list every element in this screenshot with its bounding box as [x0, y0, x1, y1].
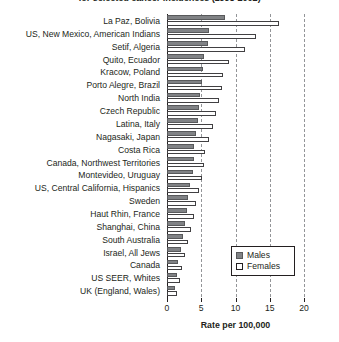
bar-females: [167, 150, 205, 155]
bar-females: [167, 111, 216, 116]
category-label-list: La Paz, BoliviaUS, New Mexico, American …: [0, 14, 164, 297]
bar-males: [167, 195, 188, 200]
bar-females: [167, 124, 213, 129]
bar-females: [167, 34, 256, 39]
bar-females: [167, 137, 209, 142]
bar-females: [167, 188, 199, 193]
bar-females: [167, 21, 279, 26]
x-tick-20: [304, 298, 305, 302]
bar-males: [167, 41, 208, 46]
bar-males: [167, 118, 198, 123]
x-tick-label-5: 5: [189, 303, 213, 313]
bar-males: [167, 170, 193, 175]
bar-males: [167, 144, 194, 149]
bar-females: [167, 176, 202, 181]
bar-females: [167, 266, 182, 271]
bar-females: [167, 201, 196, 206]
x-axis-label: Rate per 100,000: [167, 320, 304, 330]
bar-males: [167, 105, 199, 110]
chart-title-clip: for selected cancer incidences (1998-200…: [0, 0, 339, 7]
category-label: UK (England, Wales): [80, 284, 160, 298]
legend-swatch-females-icon: [236, 263, 243, 270]
bar-females: [167, 73, 223, 78]
x-tick-15: [270, 298, 271, 302]
legend-swatch-males-icon: [236, 252, 243, 259]
legend: Males Females: [231, 246, 295, 276]
bar-males: [167, 273, 177, 278]
x-tick-label-10: 10: [224, 303, 248, 313]
x-tick-label-15: 15: [258, 303, 282, 313]
bar-females: [167, 291, 177, 296]
bar-females: [167, 240, 188, 245]
bar-females: [167, 98, 219, 103]
bar-females: [167, 60, 229, 65]
bar-females: [167, 214, 194, 219]
bar-males: [167, 67, 203, 72]
bar-males: [167, 234, 183, 239]
bar-chart: for selected cancer incidences (1998-200…: [0, 0, 339, 342]
bar-females: [167, 227, 191, 232]
bar-females: [167, 47, 245, 52]
bar-males: [167, 286, 175, 291]
bar-females: [167, 278, 180, 283]
chart-title: for selected cancer incidences (1998-200…: [0, 0, 339, 4]
bar-males: [167, 183, 190, 188]
x-tick-10: [236, 298, 237, 302]
bar-males: [167, 80, 202, 85]
bar-males: [167, 260, 178, 265]
bar-males: [167, 157, 194, 162]
legend-item-females: Females: [236, 261, 290, 272]
x-tick-label-20: 20: [292, 303, 316, 313]
bar-females: [167, 163, 204, 168]
bar-males: [167, 54, 204, 59]
bar-males: [167, 221, 185, 226]
bar-row: [167, 284, 304, 298]
x-tick-label-0: 0: [155, 303, 179, 313]
x-tick-0: [167, 298, 168, 302]
bar-males: [167, 247, 181, 252]
legend-item-males: Males: [236, 250, 290, 261]
legend-label-females: Females: [247, 261, 280, 272]
bar-males: [167, 93, 200, 98]
bar-males: [167, 131, 196, 136]
bar-males: [167, 208, 187, 213]
bar-females: [167, 253, 185, 258]
x-tick-5: [201, 298, 202, 302]
legend-label-males: Males: [247, 250, 270, 261]
bar-males: [167, 15, 225, 20]
gridline-20: [304, 14, 305, 297]
bar-males: [167, 28, 209, 33]
bar-females: [167, 86, 222, 91]
